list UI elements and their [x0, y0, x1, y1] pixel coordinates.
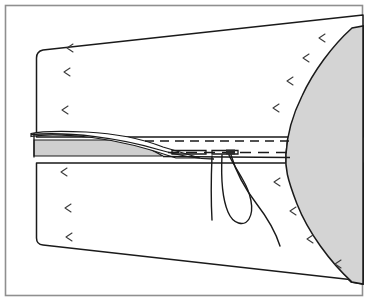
- needle-entry-mark: [226, 150, 235, 155]
- figure-root: [0, 0, 368, 301]
- seam-diagram: [0, 0, 368, 301]
- thread-tail: [211, 156, 212, 220]
